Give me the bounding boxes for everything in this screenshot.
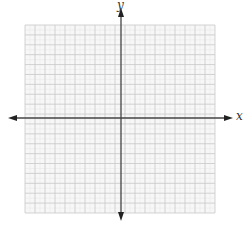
x-axis-right-arrow-icon [224,115,233,121]
y-axis-down-arrow-icon [118,212,124,221]
y-axis-label: y [117,0,124,11]
coordinate-plane [0,0,250,228]
x-axis-label: x [236,110,243,122]
x-axis-left-arrow-icon [8,115,17,121]
